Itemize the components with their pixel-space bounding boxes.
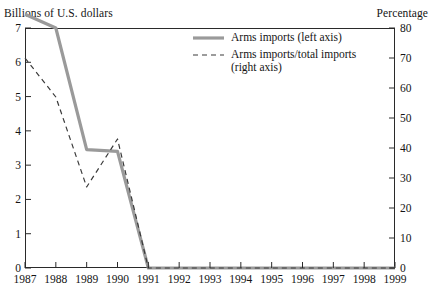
y2-tick-label: 80: [400, 22, 412, 34]
x-tick-label: 1995: [260, 273, 283, 285]
y-tick-label: 2: [1, 193, 21, 205]
x-tick-label: 1999: [384, 273, 407, 285]
y-tick-label: 6: [1, 56, 21, 68]
chart-legend: Arms imports (left axis) Arms imports/to…: [193, 31, 383, 78]
legend-item-label-line1: Arms imports/total imports: [231, 48, 356, 60]
y2-tick-label: 30: [400, 172, 412, 184]
x-tick-label: 1998: [353, 273, 376, 285]
legend-item-arms-import-share: Arms imports/total imports (right axis): [193, 48, 383, 75]
x-tick-label: 1990: [106, 273, 129, 285]
dashed-line-icon: [193, 49, 224, 61]
x-tick-label: 1994: [229, 273, 252, 285]
arms-imports-chart: Billions of U.S. dollars Percentage Arms…: [0, 0, 432, 301]
y2-tick-label: 20: [400, 202, 412, 214]
y2-tick-label: 10: [400, 232, 412, 244]
x-tick-label: 1989: [75, 273, 98, 285]
y-tick-label: 4: [1, 125, 21, 137]
y-tick-label: 5: [1, 91, 21, 103]
y2-tick-label: 50: [400, 112, 412, 124]
y-tick-label: 7: [1, 22, 21, 34]
x-tick-label: 1997: [322, 273, 345, 285]
x-tick-label: 1991: [137, 273, 160, 285]
x-tick-label: 1992: [168, 273, 191, 285]
x-tick-label: 1987: [14, 273, 37, 285]
y2-tick-label: 70: [400, 52, 412, 64]
y2-tick-label: 60: [400, 82, 412, 94]
legend-item-label: Arms imports (left axis): [231, 31, 342, 45]
x-tick-label: 1988: [44, 273, 67, 285]
y2-tick-label: 40: [400, 142, 412, 154]
legend-item-label-line2: (right axis): [231, 61, 282, 73]
legend-item-arms-imports: Arms imports (left axis): [193, 31, 383, 45]
legend-item-label: Arms imports/total imports (right axis): [231, 48, 356, 75]
x-tick-label: 1996: [291, 273, 314, 285]
x-tick-label: 1993: [199, 273, 222, 285]
y-tick-label: 3: [1, 159, 21, 171]
series-line-1: [25, 58, 395, 268]
left-axis-title: Billions of U.S. dollars: [4, 7, 113, 19]
right-axis-title: Percentage: [377, 7, 428, 19]
y-tick-label: 1: [1, 228, 21, 240]
solid-line-icon: [193, 32, 224, 44]
